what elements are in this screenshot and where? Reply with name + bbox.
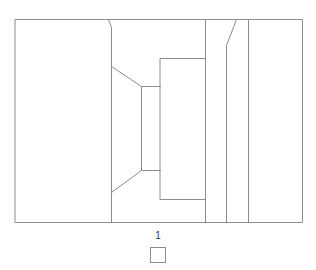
lower-slant-path xyxy=(112,171,142,193)
legend: 1 xyxy=(140,230,176,263)
region-divider-left-path xyxy=(109,20,112,223)
legend-label: 1 xyxy=(140,230,176,242)
legend-swatch xyxy=(150,247,166,263)
drawing-strokes xyxy=(16,20,303,223)
inner-box-path xyxy=(161,59,206,200)
figure-root: 1 xyxy=(0,0,316,270)
bevel-right-path xyxy=(227,20,237,223)
outer-rect-path xyxy=(16,20,303,223)
upper-slant-path xyxy=(112,67,142,87)
